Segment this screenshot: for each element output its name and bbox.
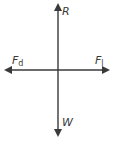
- arrow-down-icon: [54, 129, 62, 137]
- force-diagram: [0, 0, 118, 145]
- arrow-up-icon: [54, 3, 62, 11]
- force-symbol-down: W: [62, 116, 73, 129]
- arrow-left-icon: [4, 66, 12, 74]
- force-subscript-right: l: [101, 59, 103, 68]
- force-subscript-left: d: [18, 59, 23, 68]
- force-label-up: R: [62, 6, 70, 17]
- force-label-down: W: [62, 117, 73, 128]
- force-label-left: Fd: [12, 55, 23, 68]
- force-symbol-up: R: [62, 5, 70, 18]
- force-label-right: Fl: [95, 55, 104, 68]
